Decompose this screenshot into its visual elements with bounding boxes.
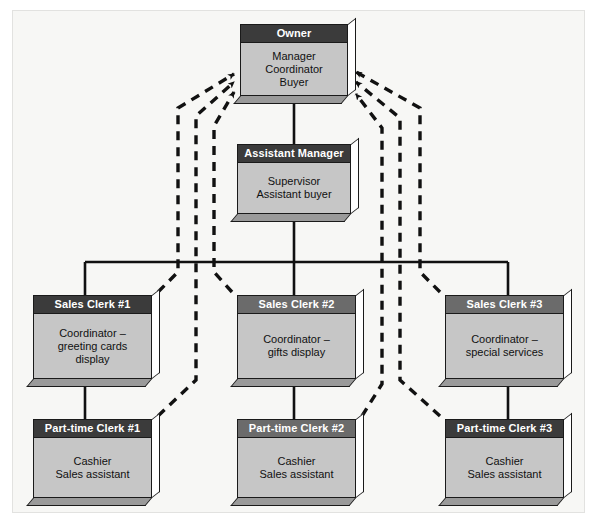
node-sales-clerk-2[interactable]: Sales Clerk #2 Coordinator – gifts displ… [237, 295, 356, 379]
dashed-pt3-owner [356, 82, 440, 416]
node-owner-title: Owner [241, 25, 347, 43]
node-assistant-manager-body: Assistant Manager Supervisor Assistant b… [237, 144, 351, 214]
node-sales-clerk-2-desc: Coordinator – gifts display [238, 314, 355, 378]
node-sales-clerk-3-title: Sales Clerk #3 [446, 296, 563, 314]
node-sales-clerk-2-bottom-face [230, 379, 356, 387]
node-sales-clerk-1-side-face [152, 289, 160, 379]
node-part-time-clerk-1-desc: Cashier Sales assistant [34, 438, 151, 497]
node-part-time-clerk-1-title: Part-time Clerk #1 [34, 420, 151, 438]
node-owner-desc: Manager Coordinator Buyer [241, 43, 347, 95]
node-sales-clerk-3-desc: Coordinator – special services [446, 314, 563, 378]
node-part-time-clerk-2-bottom-face [230, 498, 356, 506]
node-sales-clerk-2-side-face [356, 289, 364, 379]
node-sales-clerk-2-title: Sales Clerk #2 [238, 296, 355, 314]
node-owner-bottom-face [233, 96, 348, 104]
node-sales-clerk-1-body: Sales Clerk #1 Coordinator – greeting ca… [33, 295, 152, 379]
node-part-time-clerk-3-side-face [564, 413, 572, 498]
node-owner[interactable]: Owner Manager Coordinator Buyer [240, 24, 348, 96]
dashed-sc3-owner [356, 72, 440, 292]
node-part-time-clerk-3-bottom-face [438, 498, 564, 506]
node-sales-clerk-1[interactable]: Sales Clerk #1 Coordinator – greeting ca… [33, 295, 152, 379]
node-part-time-clerk-2-body: Part-time Clerk #2 Cashier Sales assista… [237, 419, 356, 498]
dashed-sc1-owner [158, 74, 234, 292]
node-part-time-clerk-2[interactable]: Part-time Clerk #2 Cashier Sales assista… [237, 419, 356, 498]
node-sales-clerk-1-desc: Coordinator – greeting cards display [34, 314, 151, 378]
node-sales-clerk-3-side-face [564, 289, 572, 379]
node-part-time-clerk-2-title: Part-time Clerk #2 [238, 420, 355, 438]
node-part-time-clerk-3-desc: Cashier Sales assistant [446, 438, 563, 497]
node-sales-clerk-1-title: Sales Clerk #1 [34, 296, 151, 314]
node-part-time-clerk-2-side-face [356, 413, 364, 498]
node-part-time-clerk-1-body: Part-time Clerk #1 Cashier Sales assista… [33, 419, 152, 498]
node-assistant-manager-bottom-face [230, 214, 351, 222]
node-part-time-clerk-3-title: Part-time Clerk #3 [446, 420, 563, 438]
node-sales-clerk-1-bottom-face [26, 379, 152, 387]
node-part-time-clerk-3-body: Part-time Clerk #3 Cashier Sales assista… [445, 419, 564, 498]
node-part-time-clerk-1[interactable]: Part-time Clerk #1 Cashier Sales assista… [33, 419, 152, 498]
node-part-time-clerk-1-side-face [152, 413, 160, 498]
node-part-time-clerk-1-bottom-face [26, 498, 152, 506]
node-sales-clerk-2-body: Sales Clerk #2 Coordinator – gifts displ… [237, 295, 356, 379]
node-sales-clerk-3-bottom-face [438, 379, 564, 387]
node-assistant-manager-desc: Supervisor Assistant buyer [238, 163, 350, 213]
node-part-time-clerk-2-desc: Cashier Sales assistant [238, 438, 355, 497]
node-part-time-clerk-3[interactable]: Part-time Clerk #3 Cashier Sales assista… [445, 419, 564, 498]
node-owner-side-face [348, 18, 356, 96]
node-assistant-manager-side-face [351, 138, 359, 214]
node-sales-clerk-3-body: Sales Clerk #3 Coordinator – special ser… [445, 295, 564, 379]
node-sales-clerk-3[interactable]: Sales Clerk #3 Coordinator – special ser… [445, 295, 564, 379]
node-assistant-manager-title: Assistant Manager [238, 145, 350, 163]
dashed-pt1-owner [158, 82, 234, 416]
node-owner-body: Owner Manager Coordinator Buyer [240, 24, 348, 96]
node-assistant-manager[interactable]: Assistant Manager Supervisor Assistant b… [237, 144, 351, 214]
